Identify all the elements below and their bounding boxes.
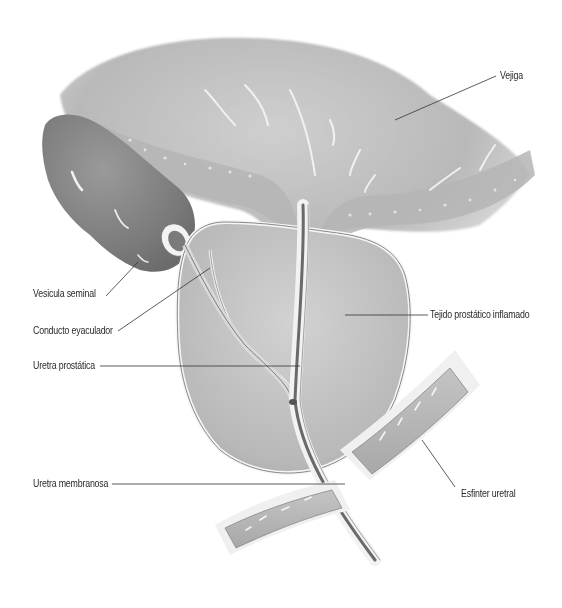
label-esfinter-uretral: Esfinter uretral	[461, 488, 515, 499]
label-uretra-membranosa: Uretra membranosa	[33, 478, 108, 489]
label-vesicula-seminal: Vesicula seminal	[33, 288, 96, 299]
label-conducto-eyaculador: Conducto eyaculador	[33, 325, 113, 336]
leader-line-esfinter	[422, 440, 455, 487]
prostate-anatomy-illustration	[0, 0, 562, 608]
label-vejiga: Vejiga	[500, 70, 523, 81]
label-tejido-prostatico: Tejido prostático inflamado	[430, 309, 529, 320]
leader-line-vesicula	[106, 262, 138, 296]
label-uretra-prostatica: Uretra prostática	[33, 360, 95, 371]
